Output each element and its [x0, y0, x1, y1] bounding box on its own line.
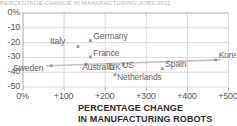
data-point-marker	[214, 58, 217, 61]
data-point-label: Sweden	[13, 64, 43, 73]
data-point-marker	[114, 73, 117, 76]
data-point-marker	[89, 56, 92, 59]
data-point-label: France	[93, 49, 119, 58]
data-point-marker	[50, 64, 53, 67]
caption-line-1: PERCENTAGE CHANGE	[78, 103, 237, 114]
x-tick-label: +300	[129, 92, 163, 101]
y-tick-label: -30	[0, 52, 20, 61]
y-tick-label: -10	[0, 23, 20, 32]
x-tick-label: +500	[211, 92, 237, 101]
data-point-marker	[89, 39, 92, 42]
data-point-label: Italy	[50, 37, 65, 46]
x-tick-label: 0%	[6, 92, 40, 101]
y-tick-label: -20	[0, 38, 20, 47]
chart-figure: PERCENTAGE CHANGE IN MANUFACTURING JOBS …	[0, 0, 237, 126]
x-tick-label: +100	[47, 92, 81, 101]
data-point-label: Netherlands	[117, 73, 162, 82]
data-point-marker	[77, 45, 80, 48]
data-point-label: Korea	[219, 51, 237, 60]
caption-line-2: IN MANUFACTURING ROBOTS	[78, 114, 237, 125]
data-point-label: US	[122, 61, 134, 70]
x-tick-label: +400	[170, 92, 204, 101]
x-tick-label: +200	[88, 92, 122, 101]
data-point-label: Germany	[93, 32, 127, 41]
y-tick-label: 0%	[0, 8, 20, 17]
data-point-label: Spain	[165, 60, 186, 69]
data-point-label: UK	[109, 63, 121, 72]
x-axis-caption: PERCENTAGE CHANGE IN MANUFACTURING ROBOT…	[78, 103, 237, 124]
data-point-marker	[161, 67, 164, 70]
y-tick-label: -50	[0, 82, 20, 91]
